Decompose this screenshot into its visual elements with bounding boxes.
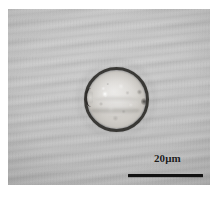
scale-bar-line [128,174,203,177]
micrograph-figure: 20μm [0,0,217,200]
pollen-grain [84,67,149,132]
micrograph-field: 20μm [8,9,210,185]
scale-bar-label: 20μm [154,152,210,164]
focus-softening-overlay [82,65,151,134]
